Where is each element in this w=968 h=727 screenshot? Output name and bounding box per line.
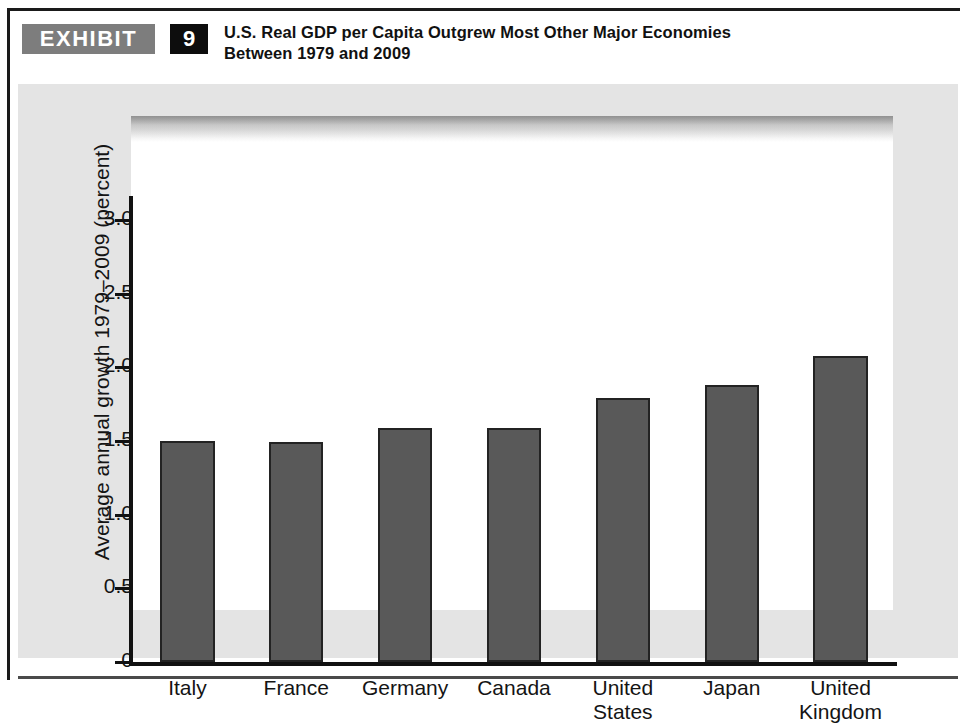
x-axis-label-germany: Germany bbox=[351, 676, 460, 700]
exhibit-title-line2: Between 1979 and 2009 bbox=[224, 43, 944, 64]
x-axis-label-japan: Japan bbox=[677, 676, 786, 700]
frame-rule-left bbox=[7, 8, 10, 680]
x-axis-label-united-states: UnitedStates bbox=[568, 676, 677, 723]
x-axis-label-line: United bbox=[568, 676, 677, 700]
frame-rule-top bbox=[7, 8, 960, 11]
exhibit-badge: EXHIBIT bbox=[22, 24, 155, 54]
x-axis-label-line: States bbox=[568, 700, 677, 724]
x-axis-label-united-kingdom: UnitedKingdom bbox=[786, 676, 895, 723]
bar-japan bbox=[705, 385, 759, 662]
x-axis-label-italy: Italy bbox=[133, 676, 242, 700]
bar-germany bbox=[378, 428, 432, 662]
exhibit-number-badge: 9 bbox=[170, 24, 208, 54]
y-axis-line bbox=[129, 196, 133, 666]
x-axis-label-line: Japan bbox=[677, 676, 786, 700]
bar-united-kingdom bbox=[813, 356, 867, 662]
x-axis-label-line: Canada bbox=[460, 676, 569, 700]
x-axis-label-line: France bbox=[242, 676, 351, 700]
exhibit-header: EXHIBIT 9 U.S. Real GDP per Capita Outgr… bbox=[22, 22, 952, 74]
x-axis-label-line: Italy bbox=[133, 676, 242, 700]
y-axis-title: Average annual growth 1979–2009 (percent… bbox=[90, 122, 114, 582]
bar-united-states bbox=[596, 398, 650, 662]
x-axis-line bbox=[129, 662, 897, 666]
x-axis-label-line: United bbox=[786, 676, 895, 700]
y-axis-ticks: 00.51.01.52.02.53.0 bbox=[18, 84, 133, 658]
exhibit-title-line1: U.S. Real GDP per Capita Outgrew Most Ot… bbox=[224, 23, 731, 41]
x-axis-label-france: France bbox=[242, 676, 351, 700]
chart-panel: 00.51.01.52.02.53.0 Average annual growt… bbox=[18, 84, 958, 658]
bar-france bbox=[269, 442, 323, 662]
bar-italy bbox=[160, 441, 214, 662]
y-axis-tick-label: 0 bbox=[85, 648, 133, 672]
x-axis-label-canada: Canada bbox=[460, 676, 569, 700]
bar-canada bbox=[487, 428, 541, 662]
x-axis-label-line: Kingdom bbox=[786, 700, 895, 724]
x-axis-label-line: Germany bbox=[351, 676, 460, 700]
exhibit-title: U.S. Real GDP per Capita Outgrew Most Ot… bbox=[224, 22, 944, 64]
